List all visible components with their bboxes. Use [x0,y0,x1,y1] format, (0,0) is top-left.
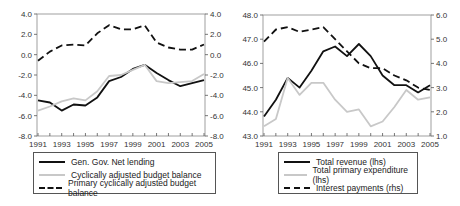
x-tick-label: 2003 [397,140,415,149]
solid-black-line-icon [284,161,310,163]
y-tick-label-right: 4.0 [436,59,448,68]
y-tick-label-right: 6.0 [436,11,448,20]
solid-gray-line-icon [39,174,65,176]
x-tick-label: 1995 [77,140,95,149]
series-line [38,65,204,111]
legend-item: Primary cyclically adjusted budget balan… [39,181,210,194]
series-line [38,25,204,61]
y-tick-label-right: 2.0 [210,30,222,39]
y-tick-label-right: 5.0 [436,35,448,44]
legend-label: Primary cyclically adjusted budget balan… [68,178,210,198]
y-tick-label-right: -6.0 [210,112,224,121]
dashed-black-line-icon [39,187,62,189]
y-tick-label-right: -2.0 [210,71,224,80]
y-tick-label-right: 3.0 [436,84,448,93]
x-tick-label: 2001 [148,140,166,149]
x-tick-label: 2003 [171,140,189,149]
y-tick-label-left: 47.0 [242,35,258,44]
legend-item: Interest payments (rhs) [284,181,412,194]
y-tick-label-left: 46.0 [242,59,258,68]
y-tick-label-left: -2.0 [18,71,32,80]
x-tick-label: 1995 [303,140,321,149]
x-tick-label: 1991 [29,140,47,149]
x-tick-label: 1991 [255,140,273,149]
legend-item: Total primary expenditure (lhs) [284,168,412,181]
solid-gray-line-icon [284,174,307,176]
y-tick-label-left: -6.0 [18,112,32,121]
x-tick-label: 1997 [326,140,344,149]
x-tick-label: 1993 [279,140,297,149]
y-tick-label-left: 2.0 [21,30,33,39]
legend-label: Interest payments (rhs) [316,183,403,193]
y-tick-label-right: 0.0 [210,51,222,60]
x-tick-label: 1999 [350,140,368,149]
x-tick-label: 1997 [100,140,118,149]
series-line [38,65,204,111]
legend-right: Total revenue (lhs) Total primary expend… [278,152,418,194]
legend-left: Gen. Gov. Net lending Cyclically adjuste… [33,152,216,194]
y-tick-label-left: 45.0 [242,84,258,93]
legend-label: Gen. Gov. Net lending [71,157,154,167]
x-tick-label: 2005 [421,140,439,149]
legend-item: Gen. Gov. Net lending [39,155,210,168]
x-tick-label: 2001 [374,140,392,149]
y-tick-label-left: 4.0 [21,10,33,19]
dashed-black-line-icon [284,187,310,189]
plot-frame [263,15,431,136]
solid-black-line-icon [39,161,65,163]
y-tick-label-right: 4.0 [210,10,222,19]
y-tick-label-right: -4.0 [210,91,224,100]
y-tick-label-left: 44.0 [242,108,258,117]
x-tick-label: 1999 [124,140,142,149]
legend-label: Total primary expenditure (lhs) [313,165,412,185]
x-tick-label: 1993 [53,140,71,149]
x-tick-label: 2005 [195,140,213,149]
y-tick-label-left: 0.0 [21,51,33,60]
y-tick-label-left: 48.0 [242,11,258,20]
y-tick-label-right: 2.0 [436,108,448,117]
y-tick-label-left: -4.0 [18,91,32,100]
